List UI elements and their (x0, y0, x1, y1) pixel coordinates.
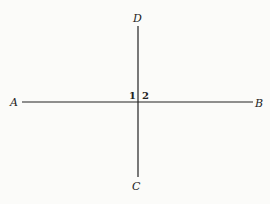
angle-label-1: 1 (129, 90, 136, 101)
point-label-d: D (132, 12, 142, 25)
point-label-a: A (9, 96, 18, 109)
perpendicular-lines-diagram: A B D C 1 2 (0, 0, 270, 204)
point-label-c: C (132, 180, 141, 193)
angle-label-2: 2 (142, 90, 149, 101)
point-label-b: B (254, 97, 263, 110)
